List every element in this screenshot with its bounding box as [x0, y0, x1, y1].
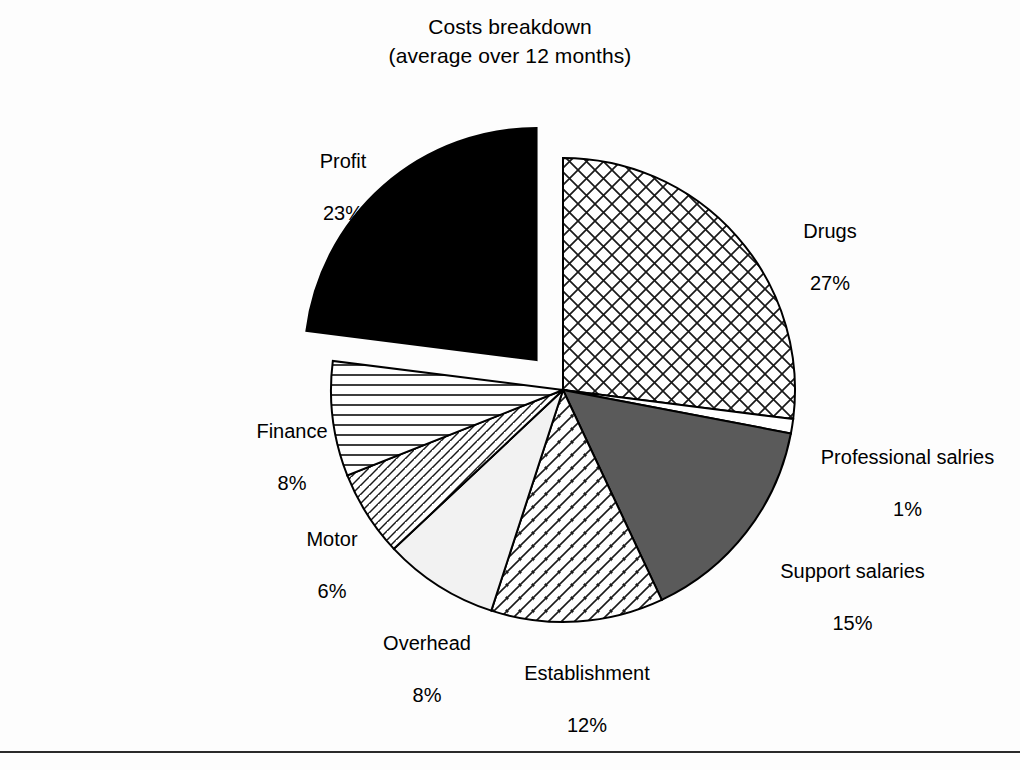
slice-label-overhead-value: 8%: [352, 682, 502, 708]
slice-label-professional-salaries: Professional salries 1%: [790, 418, 1020, 548]
slice-label-overhead-name: Overhead: [352, 630, 502, 656]
slice-label-establishment-value: 12%: [487, 712, 687, 738]
slice-label-motor-name: Motor: [272, 526, 392, 552]
slice-label-establishment: Establishment 12%: [487, 634, 687, 764]
slice-label-profit-value: 23%: [268, 200, 418, 226]
bottom-divider: [0, 751, 1020, 753]
slice-label-profit: Profit 23%: [268, 122, 418, 252]
chart-figure: Costs breakdown(average over 12 months): [0, 0, 1020, 770]
slice-label-professional-salaries-value: 1%: [790, 496, 1020, 522]
slice-label-professional-salaries-name: Professional salries: [790, 444, 1020, 470]
slice-label-support-salaries: Support salaries 15%: [745, 532, 960, 662]
slice-label-drugs-value: 27%: [770, 270, 890, 296]
slice-label-profit-name: Profit: [268, 148, 418, 174]
slice-label-drugs-name: Drugs: [770, 218, 890, 244]
slice-label-finance-name: Finance: [222, 418, 362, 444]
slice-label-finance: Finance 8%: [222, 392, 362, 522]
pie-slice-drugs: [563, 158, 795, 419]
slice-label-drugs: Drugs 27%: [770, 192, 890, 322]
slice-label-support-salaries-value: 15%: [745, 610, 960, 636]
slice-label-support-salaries-name: Support salaries: [745, 558, 960, 584]
slice-label-establishment-name: Establishment: [487, 660, 687, 686]
slice-label-motor-value: 6%: [272, 578, 392, 604]
slice-label-finance-value: 8%: [222, 470, 362, 496]
